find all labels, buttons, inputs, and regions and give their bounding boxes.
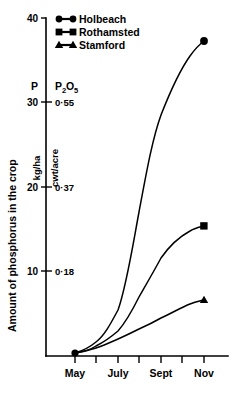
x-tick-label-may: May (65, 367, 86, 379)
curve-stamford (75, 300, 204, 353)
legend-label-stamford: Stamford (79, 39, 125, 51)
curve-rothamsted (75, 226, 204, 353)
legend-marker-circle-end-icon (70, 16, 77, 23)
y-unit-kg-per-ha: kg/ha (31, 155, 42, 181)
data-point-stamford-nov (200, 296, 208, 303)
legend-marker-circle-icon (56, 16, 63, 23)
svg-text:O: O (66, 80, 74, 92)
x-tick-label-nov: Nov (194, 367, 214, 379)
legend: Holbeach Rothamsted Stamford (55, 13, 140, 51)
y-tick-label-30: 30 (27, 97, 39, 108)
legend-marker-square-end-icon (70, 29, 77, 36)
y-tick-label-right-018: 0·18 (55, 266, 74, 277)
x-axis-ticks (75, 356, 204, 363)
y-tick-label-right-055: 0·55 (55, 97, 75, 108)
legend-item-holbeach: Holbeach (56, 13, 127, 25)
data-point-rothamsted-nov (200, 222, 207, 229)
svg-text:P: P (55, 80, 62, 92)
legend-marker-square-icon (56, 29, 63, 36)
unit-head-p2o5-right: P 2 O 5 (55, 80, 78, 95)
x-tick-label-sept: Sept (150, 367, 173, 379)
y-axis-title: Amount of phosphorus in the crop (6, 159, 18, 332)
legend-label-holbeach: Holbeach (79, 13, 126, 25)
legend-item-stamford: Stamford (55, 39, 125, 51)
data-point-origin (71, 349, 78, 356)
legend-item-rothamsted: Rothamsted (56, 26, 140, 38)
y-tick-label-40: 40 (27, 13, 39, 24)
legend-label-rothamsted: Rothamsted (79, 26, 140, 38)
y-unit-cwt-per-acre: cwt/acre (49, 149, 60, 187)
data-point-holbeach-nov (200, 37, 208, 45)
svg-text:5: 5 (74, 86, 78, 95)
y-tick-label-20: 20 (27, 182, 39, 193)
phosphorus-uptake-chart: Amount of phosphorus in the crop 40 30 2… (0, 0, 240, 398)
unit-head-p-left: P (31, 80, 38, 92)
x-tick-label-july: July (107, 367, 128, 379)
y-tick-label-10: 10 (27, 266, 39, 277)
